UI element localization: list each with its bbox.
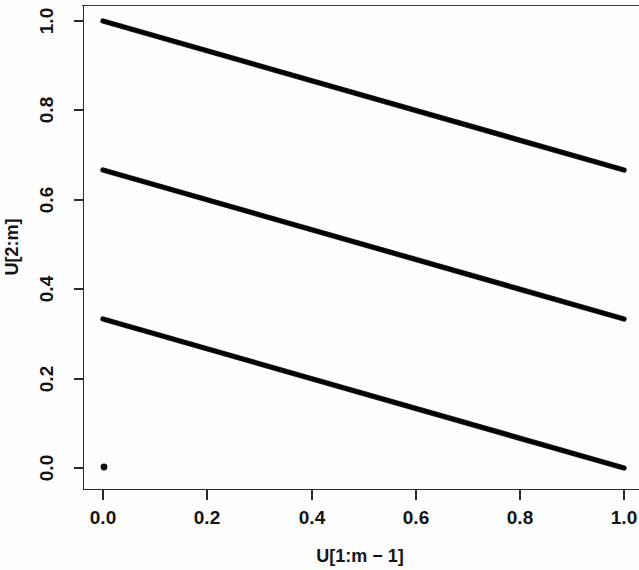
x-tick-label-0.8: 0.8 <box>507 507 533 528</box>
y-axis-ticks <box>74 21 84 468</box>
lattice-band-lower <box>103 319 624 468</box>
band-upper-core <box>103 21 624 170</box>
x-tick-label-0.4: 0.4 <box>299 507 326 528</box>
x-tick-label-0.2: 0.2 <box>194 507 220 528</box>
band-lower-core <box>103 319 624 468</box>
y-tick-label-0.6: 0.6 <box>36 187 57 213</box>
y-tick-label-0.4: 0.4 <box>36 275 57 302</box>
scatter-plot-figure: 1.0 0.8 0.6 0.4 0.2 0.0 0.0 0.2 0.4 0.6 … <box>0 0 639 570</box>
data-marks <box>101 21 624 470</box>
plot-canvas: 1.0 0.8 0.6 0.4 0.2 0.0 0.0 0.2 0.4 0.6 … <box>0 0 639 570</box>
x-tick-label-1.0: 1.0 <box>611 507 637 528</box>
y-tick-label-0.8: 0.8 <box>36 97 57 123</box>
x-tick-label-0.6: 0.6 <box>403 507 429 528</box>
x-tick-label-0.0: 0.0 <box>90 507 116 528</box>
x-axis-ticks <box>103 490 624 500</box>
lattice-band-upper <box>103 21 624 170</box>
x-axis-tick-labels: 0.0 0.2 0.4 0.6 0.8 1.0 <box>90 507 637 528</box>
y-axis-tick-labels: 1.0 0.8 0.6 0.4 0.2 0.0 <box>36 8 57 481</box>
band-middle-core <box>103 170 624 319</box>
y-tick-label-1.0: 1.0 <box>36 8 57 34</box>
y-tick-label-0.0: 0.0 <box>36 455 57 481</box>
y-axis-title: U[2:m] <box>2 219 22 276</box>
x-axis-title: U[1:m − 1] <box>316 546 404 566</box>
lattice-band-middle <box>103 170 624 319</box>
y-tick-label-0.2: 0.2 <box>36 366 57 392</box>
origin-data-point <box>101 464 108 471</box>
